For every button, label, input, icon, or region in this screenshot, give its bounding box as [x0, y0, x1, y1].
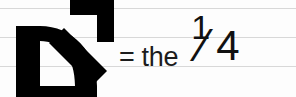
fraction-slash: ⁄: [199, 22, 207, 68]
d-arrow-mars-symbol-icon: [2, 0, 120, 97]
equation-line: = the 1 ⁄ 4 Man: [119, 42, 296, 71]
word-man: Man: [295, 42, 296, 71]
article-the: the: [142, 44, 179, 71]
image-canvas: = the 1 ⁄ 4 Man: [0, 0, 296, 97]
fraction-one-quarter: 1 ⁄ 4: [190, 65, 238, 66]
equation-phrase: = the 1 ⁄ 4 Man: [119, 0, 296, 97]
fraction-denominator: 4: [216, 25, 239, 67]
equals-sign: =: [119, 44, 135, 71]
